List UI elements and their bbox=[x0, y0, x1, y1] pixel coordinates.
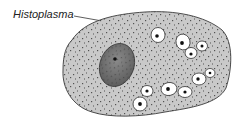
organism bbox=[192, 73, 206, 85]
histoplasma-label: Histoplasma bbox=[13, 8, 74, 20]
organism bbox=[185, 48, 197, 59]
histoplasma-diagram: Histoplasma bbox=[0, 0, 246, 126]
organism bbox=[151, 28, 165, 43]
organism bbox=[133, 97, 147, 111]
cytoplasm-stipple bbox=[63, 12, 231, 117]
organism bbox=[178, 87, 192, 98]
macrophage-cell bbox=[63, 12, 231, 117]
nucleolus bbox=[113, 57, 117, 61]
organism bbox=[205, 69, 215, 78]
organism bbox=[141, 86, 153, 97]
organism bbox=[197, 41, 208, 51]
